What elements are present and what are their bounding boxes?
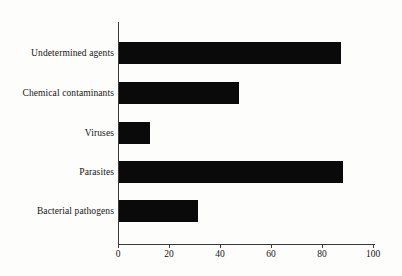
- bar-parasites: [119, 161, 343, 183]
- bar-row: Viruses: [0, 122, 402, 144]
- bar-chart: Undetermined agents Chemical contaminant…: [0, 0, 402, 276]
- tick-label: 80: [317, 249, 327, 259]
- bar-row: Bacterial pathogens: [0, 200, 402, 222]
- category-label: Parasites: [79, 167, 114, 177]
- category-label: Bacterial pathogens: [37, 206, 114, 216]
- bar-row: Parasites: [0, 161, 402, 183]
- tick-label: 20: [164, 249, 174, 259]
- x-axis-ticks: 0 20 40 60 80 100: [0, 244, 402, 274]
- tick-mark: [373, 244, 374, 248]
- tick-mark: [118, 244, 119, 248]
- bar-viruses: [119, 122, 150, 144]
- category-label: Viruses: [85, 128, 114, 138]
- bar-row: Undetermined agents: [0, 42, 402, 64]
- tick-label: 60: [266, 249, 276, 259]
- category-label: Undetermined agents: [31, 48, 114, 58]
- category-label: Chemical contaminants: [22, 88, 114, 98]
- tick-label: 100: [366, 249, 380, 259]
- tick-mark: [169, 244, 170, 248]
- bar-chemical-contaminants: [119, 82, 239, 104]
- tick-label: 40: [215, 249, 225, 259]
- bar-row: Chemical contaminants: [0, 82, 402, 104]
- tick-label: 0: [116, 249, 121, 259]
- tick-mark: [220, 244, 221, 248]
- bar-bacterial-pathogens: [119, 200, 198, 222]
- bar-undetermined-agents: [119, 42, 341, 64]
- bars-layer: Undetermined agents Chemical contaminant…: [0, 0, 402, 276]
- tick-mark: [271, 244, 272, 248]
- tick-mark: [322, 244, 323, 248]
